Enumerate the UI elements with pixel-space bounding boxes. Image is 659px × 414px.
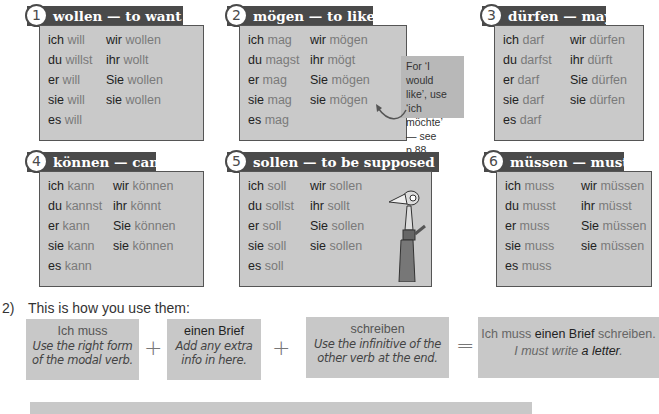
verb-form: dürfen	[592, 73, 627, 87]
formula-sub: Use the infinitive of the	[306, 337, 449, 351]
pronoun: er	[248, 219, 259, 233]
pronoun: es	[503, 113, 516, 127]
verb-table-wollen: 1 wollen — to want ich will wir wollen d…	[27, 6, 207, 116]
cartoon-figure-icon	[385, 186, 429, 282]
pronoun: er	[48, 73, 59, 87]
pronoun: sie	[48, 239, 64, 253]
verb-form: darf	[522, 93, 544, 107]
pronoun: er	[505, 219, 516, 233]
formula-main: schreiben	[306, 317, 449, 337]
verb-form: dürft	[587, 53, 612, 67]
pronoun: wir	[581, 179, 597, 193]
formula-sub: other verb at the end.	[306, 351, 449, 365]
pronoun: er	[503, 73, 514, 87]
formula-sub: Add any extra	[167, 339, 261, 353]
pronoun: sie	[248, 239, 264, 253]
result-german: Ich muss einen Brief schreiben.	[478, 317, 659, 343]
formula-main: Ich muss	[26, 319, 139, 339]
verb-form: kann	[63, 219, 90, 233]
note-line: like’, use	[406, 87, 459, 101]
pronoun: ihr	[570, 53, 584, 67]
plus-icon: +	[144, 335, 162, 360]
verb-form: wollen	[128, 73, 163, 87]
pronoun: sie	[106, 93, 122, 107]
formula-sub: of the modal verb.	[26, 353, 139, 367]
verb-form: dürfen	[589, 33, 624, 47]
number-badge: 4	[25, 150, 48, 173]
pronoun: du	[248, 53, 262, 67]
pronoun: ihr	[581, 199, 595, 213]
number-badge: 1	[25, 4, 48, 27]
verb-form: magst	[265, 53, 299, 67]
formula-part-modal: Ich muss Use the right form of the modal…	[26, 319, 139, 380]
verb-form: will	[65, 113, 82, 127]
verb-header: 3 dürfen — may	[482, 6, 606, 26]
pronoun: er	[48, 219, 59, 233]
pronoun: wir	[310, 179, 326, 193]
bottom-panel	[30, 402, 532, 414]
pronoun: Sie	[310, 219, 328, 233]
verb-form: wollen	[125, 93, 160, 107]
pronoun: du	[48, 199, 62, 213]
verb-header: 5 sollen — to be supposed to	[227, 152, 439, 172]
pronoun: wir	[570, 33, 586, 47]
pronoun: sie	[581, 239, 597, 253]
pronoun: ich	[48, 179, 64, 193]
verb-form: wollt	[123, 53, 148, 67]
verb-title: sollen — to be supposed to	[253, 154, 455, 170]
pronoun: sie	[310, 239, 326, 253]
number-badge: 2	[225, 4, 248, 27]
formula-part-extra: einen Brief Add any extra info in here.	[167, 319, 261, 380]
verb-form: können	[132, 239, 173, 253]
section-heading: 2)This is how you use them:	[2, 300, 190, 316]
verb-table-duerfen: 3 dürfen — may ich darf wir dürfen du da…	[482, 6, 659, 116]
verb-table-muessen: 6 müssen — must ich muss wir müssen du m…	[484, 152, 659, 262]
pronoun: es	[248, 113, 261, 127]
number-badge: 6	[482, 150, 505, 173]
verb-table-koennen: 4 können — can ich kann wir können du ka…	[27, 152, 207, 262]
formula-sub: info in here.	[167, 353, 261, 367]
verb-title: können — can	[53, 154, 159, 170]
verb-form: muss	[524, 239, 554, 253]
pronoun: es	[48, 113, 61, 127]
verb-form: kannst	[65, 199, 102, 213]
pronoun: Sie	[310, 73, 328, 87]
verb-form: muss	[524, 179, 554, 193]
verb-form: soll	[263, 219, 282, 233]
verb-form: müssen	[600, 239, 644, 253]
pronoun: es	[248, 259, 261, 273]
pronoun: wir	[106, 33, 122, 47]
verb-form: soll	[265, 259, 284, 273]
verb-form: soll	[267, 179, 286, 193]
pronoun: es	[48, 259, 61, 273]
curved-arrow-icon	[372, 98, 408, 124]
verb-header: 4 können — can	[27, 152, 156, 172]
equals-icon: =	[456, 333, 474, 358]
conjugation-box: ich muss wir müssen du musst ihr müsst e…	[496, 171, 652, 287]
verb-form: mögen	[329, 93, 367, 107]
verb-form: muss	[522, 259, 552, 273]
verb-form: darf	[522, 33, 544, 47]
verb-form: müssen	[600, 179, 644, 193]
verb-form: mag	[267, 33, 291, 47]
pronoun: du	[503, 53, 517, 67]
verb-form: soll	[267, 239, 286, 253]
verb-form: sollen	[329, 179, 362, 193]
verb-form: mag	[265, 113, 289, 127]
pronoun: wir	[113, 179, 129, 193]
pronoun: ich	[248, 179, 264, 193]
verb-form: mag	[263, 73, 287, 87]
verb-form: können	[132, 179, 173, 193]
verb-form: will	[63, 73, 80, 87]
pronoun: Sie	[570, 73, 588, 87]
conjugation-box: ich darf wir dürfen du darfst ihr dürft …	[494, 25, 644, 141]
verb-form: dürfen	[589, 93, 624, 107]
verb-title: müssen — must	[510, 154, 629, 170]
pronoun: sie	[248, 93, 264, 107]
verb-form: sollst	[265, 199, 293, 213]
formula-result: Ich muss einen Brief schreiben. I must w…	[478, 317, 659, 378]
pronoun: ihr	[113, 199, 127, 213]
pronoun: sie	[505, 239, 521, 253]
pronoun: wir	[310, 33, 326, 47]
verb-form: sollt	[327, 199, 349, 213]
